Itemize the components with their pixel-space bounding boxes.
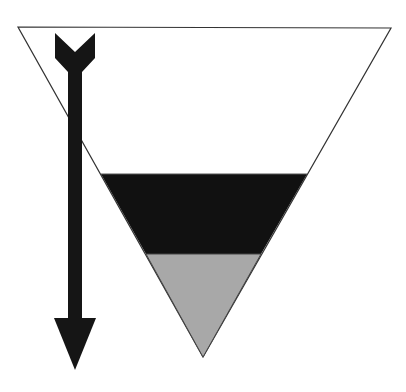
arrow-head [54,318,96,370]
bottom-layer-band [146,254,261,357]
arrow-shaft [68,70,82,320]
middle-layer-band [101,174,307,254]
layered-triangle-diagram [0,0,406,392]
